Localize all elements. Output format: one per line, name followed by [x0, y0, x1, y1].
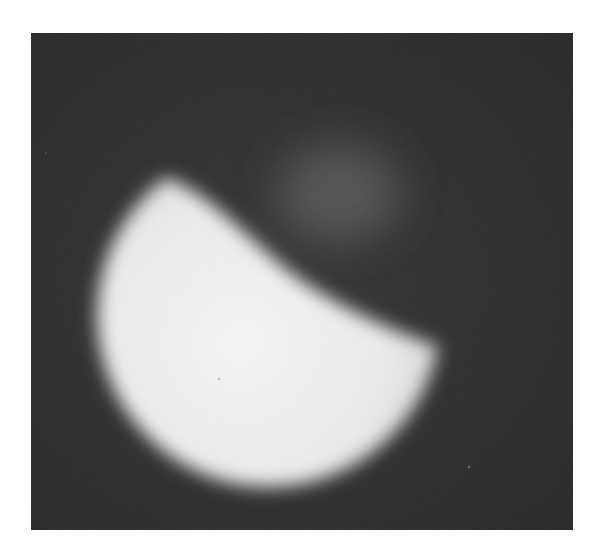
speck [218, 378, 220, 380]
speck [45, 152, 47, 154]
photo-canvas [31, 33, 573, 530]
film-grain [31, 33, 573, 530]
photograph: Grayscale photograph of a bright glowing… [31, 33, 573, 530]
speck [468, 466, 470, 468]
